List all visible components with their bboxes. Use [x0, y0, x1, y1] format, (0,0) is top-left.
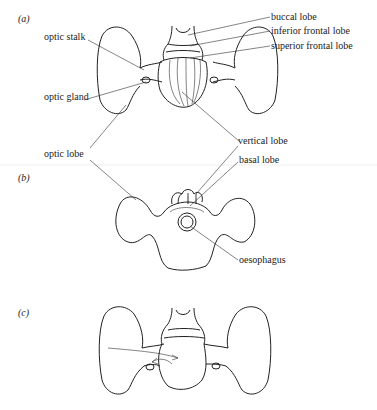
arrow-head-2	[152, 358, 158, 364]
buccal-lobe-label: buccal lobe	[271, 11, 317, 22]
optic-gland-label: optic gland	[44, 91, 89, 102]
panel-a: (a) buccal lobe inferior frontal lobe s	[18, 11, 353, 148]
vertical-lobe-label: vertical lobe	[238, 135, 288, 146]
arrow-path-1	[108, 348, 178, 358]
central-brain-c	[159, 308, 206, 389]
optic-stalk-right	[213, 62, 235, 82]
superior-frontal-lobe-label: superior frontal lobe	[271, 40, 353, 51]
panel-a-label: (a)	[18, 13, 30, 25]
basal-lobe-label: basal lobe	[239, 154, 280, 165]
basal-lobe-arc	[170, 208, 204, 213]
arrow-head-1	[172, 355, 178, 360]
inferior-frontal-lobe-label: inferior frontal lobe	[271, 25, 350, 36]
buccal-lobe-shape	[168, 26, 198, 44]
panel-c: (c)	[18, 307, 271, 394]
optic-lobe-label: optic lobe	[44, 148, 84, 159]
optic-stalk-label: optic stalk	[44, 31, 85, 42]
vertical-lobe-shape	[158, 58, 207, 108]
optic-lobe-left-c	[99, 307, 144, 394]
optic-lobe-left	[97, 27, 141, 114]
vertical-lobe-gyri	[169, 58, 200, 106]
panel-c-label: (c)	[18, 307, 30, 319]
octopus-brain-diagram: (a) buccal lobe inferior frontal lobe s	[0, 0, 377, 410]
optic-lobe-right-c	[226, 307, 271, 394]
oesophagus-label: oesophagus	[239, 254, 286, 265]
panel-b-label: (b)	[18, 172, 30, 184]
oesophagus-inner	[181, 216, 193, 228]
brain-section-outline	[116, 197, 255, 270]
